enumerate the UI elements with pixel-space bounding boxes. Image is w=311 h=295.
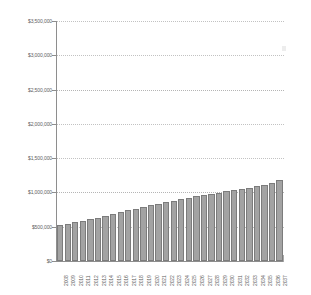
bar (269, 183, 275, 261)
bar (178, 199, 184, 261)
x-axis-tick-label: 2022 (169, 264, 175, 286)
bar (118, 212, 124, 261)
x-axis-tick-label: 2037 (282, 264, 288, 286)
bar (171, 201, 177, 261)
bar (261, 185, 267, 261)
x-axis-labels: 2008200920102011201220132014201520162017… (57, 262, 284, 295)
x-axis-tick-label: 2025 (191, 264, 197, 286)
bar (80, 221, 86, 261)
bar (193, 196, 199, 261)
bar (72, 222, 78, 261)
bar (246, 188, 252, 261)
bar (57, 225, 63, 261)
bar (110, 214, 116, 261)
y-axis-tick-label: $2,500,000 (28, 87, 52, 93)
x-axis-tick-label: 2013 (101, 264, 107, 286)
x-axis-tick-label: 2010 (78, 264, 84, 286)
bar (201, 195, 207, 261)
y-axis-tick-label: $3,000,000 (28, 52, 52, 58)
x-axis-tick-label: 2026 (199, 264, 205, 286)
bar (216, 193, 222, 261)
x-axis-tick-label: 2033 (252, 264, 258, 286)
y-axis-tick-label: $0 (47, 258, 52, 264)
x-axis-tick-label: 2034 (260, 264, 266, 286)
bar (223, 191, 229, 261)
x-axis-tick-label: 2023 (176, 264, 182, 286)
bar (87, 219, 93, 261)
bar (155, 204, 161, 261)
x-axis-tick-label: 2009 (70, 264, 76, 286)
plot-area (56, 21, 284, 261)
x-axis-tick-label: 2031 (237, 264, 243, 286)
x-axis-tick-label: 2014 (108, 264, 114, 286)
bar (65, 224, 71, 261)
bar (254, 186, 260, 261)
y-axis-tick-label: $500,000 (32, 224, 52, 230)
bar (125, 210, 131, 261)
bar (163, 202, 169, 261)
x-axis-tick-label: 2019 (146, 264, 152, 286)
x-axis-tick-label: 2015 (116, 264, 122, 286)
x-axis-tick-label: 2030 (229, 264, 235, 286)
bar (102, 216, 108, 261)
bar (140, 207, 146, 261)
x-axis-tick-label: 2028 (214, 264, 220, 286)
x-axis-tick-label: 2029 (222, 264, 228, 286)
bar (276, 180, 282, 261)
x-axis-tick-label: 2012 (93, 264, 99, 286)
bar (186, 198, 192, 261)
bar (208, 194, 214, 261)
x-axis-tick-label: 2021 (161, 264, 167, 286)
bar (239, 189, 245, 261)
y-axis-tick-label: $1,500,000 (28, 155, 52, 161)
x-axis-tick-label: 2024 (184, 264, 190, 286)
x-axis-tick-label: 2036 (275, 264, 281, 286)
y-axis-tick-label: $2,000,000 (28, 121, 52, 127)
bar (95, 218, 101, 261)
y-axis-tick-label: $3,500,000 (28, 18, 52, 24)
x-axis-tick-label: 2008 (63, 264, 69, 286)
x-axis-tick-label: 2020 (154, 264, 160, 286)
bar (148, 205, 154, 261)
x-axis-tick-label: 2016 (123, 264, 129, 286)
x-axis-tick-label: 2011 (85, 264, 91, 286)
x-axis-tick-label: 2017 (131, 264, 137, 286)
bar-chart: 2008200920102011201220132014201520162017… (0, 0, 311, 295)
x-axis-tick-label: 2027 (207, 264, 213, 286)
x-axis-tick-label: 2035 (267, 264, 273, 286)
bars-group (57, 21, 284, 261)
x-axis-tick-label: 2032 (244, 264, 250, 286)
bar (231, 190, 237, 261)
x-axis-tick-label: 2018 (138, 264, 144, 286)
y-axis-tick-label: $1,000,000 (28, 189, 52, 195)
bar (133, 209, 139, 261)
